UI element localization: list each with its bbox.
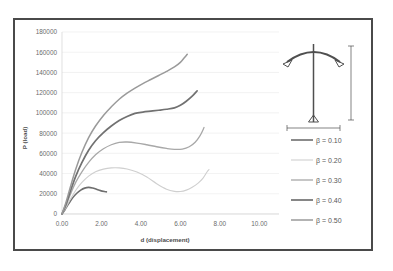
chart-legend: β = 0.10β = 0.20β = 0.30β = 0.40β = 0.50: [291, 137, 342, 225]
x-axis-title: d (displacement): [140, 236, 189, 243]
x-tick-label: 10.00: [251, 220, 267, 227]
chart-frame: 0200004000060000800001000001200001400001…: [13, 18, 373, 251]
gridlines: [62, 32, 279, 214]
y-tick-label: 120000: [36, 89, 58, 96]
x-axis-tick-labels: 0.002.004.006.008.0010.00: [56, 220, 268, 227]
y-axis-title: P (load): [21, 127, 28, 150]
y-tick-label: 100000: [36, 109, 58, 116]
x-tick-label: 0.00: [56, 220, 69, 227]
y-axis-tick-labels: 0200004000060000800001000001200001400001…: [36, 28, 58, 217]
data-series-group: [62, 54, 209, 214]
x-tick-label: 8.00: [214, 220, 227, 227]
legend-label-4: β = 0.50: [316, 217, 342, 225]
structural-frame-inset-icon: [283, 44, 354, 131]
x-tick-label: 4.00: [135, 220, 148, 227]
axis-lines: [62, 32, 279, 214]
x-tick-label: 2.00: [95, 220, 108, 227]
y-tick-label: 40000: [39, 170, 57, 177]
legend-label-0: β = 0.10: [316, 137, 342, 145]
chart-plot: 0200004000060000800001000001200001400001…: [15, 20, 371, 249]
y-tick-label: 60000: [39, 150, 57, 157]
y-tick-label: 80000: [39, 130, 57, 137]
y-tick-label: 0: [53, 210, 57, 217]
legend-label-1: β = 0.20: [316, 157, 342, 165]
y-tick-label: 20000: [39, 190, 57, 197]
y-tick-label: 140000: [36, 69, 58, 76]
y-tick-label: 180000: [36, 28, 58, 35]
y-tick-label: 160000: [36, 49, 58, 56]
figure-container: 0200004000060000800001000001200001400001…: [0, 0, 393, 271]
series-line-1: [62, 168, 209, 214]
legend-label-3: β = 0.40: [316, 197, 342, 205]
legend-label-2: β = 0.30: [316, 177, 342, 185]
x-tick-label: 6.00: [174, 220, 187, 227]
